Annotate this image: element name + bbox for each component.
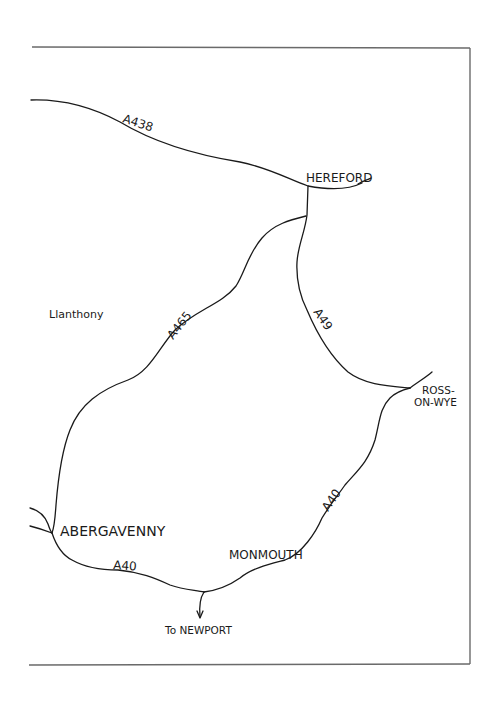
label-hereford: HEREFORD xyxy=(306,171,372,185)
frame-bottom xyxy=(29,664,470,665)
label-monmouth: MONMOUTH xyxy=(229,548,303,562)
label-llanthony: Llanthony xyxy=(49,308,104,321)
road-map: A438 HEREFORD Llanthony A465 A49 ROSS- O… xyxy=(0,0,494,711)
frame-top xyxy=(32,47,470,48)
road-a465 xyxy=(52,216,306,533)
label-abergavenny: ABERGAVENNY xyxy=(60,523,166,539)
label-a49: A49 xyxy=(311,306,336,333)
label-a40-east: A40 xyxy=(319,486,344,513)
label-a438: A438 xyxy=(121,112,155,135)
label-ross-line1: ROSS- xyxy=(422,384,455,396)
label-a465: A465 xyxy=(164,309,194,342)
label-ross-line2: ON-WYE xyxy=(414,396,457,408)
label-a40-south: A40 xyxy=(113,558,137,574)
road-a49 xyxy=(297,186,410,388)
label-to-newport: To NEWPORT xyxy=(164,624,232,636)
